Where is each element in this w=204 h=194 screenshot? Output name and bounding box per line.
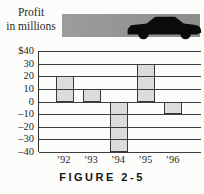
x-tick-label: ’96 (159, 154, 186, 165)
bar-93 (83, 89, 101, 102)
gridline (39, 114, 201, 115)
x-tick-label: ’92 (50, 154, 77, 165)
x-tick-label: ’93 (77, 154, 104, 165)
y-tick-label: –40 (18, 147, 34, 157)
y-tick-label: 0 (29, 97, 34, 107)
y-axis-labels: $403020100–10–20–30–40 (0, 51, 34, 152)
x-tick-label: ’94 (104, 154, 131, 165)
y-tick-label: –30 (18, 134, 34, 144)
gridline (39, 139, 201, 140)
y-tick-label: 20 (24, 71, 35, 81)
gridline (39, 76, 201, 77)
y-tick-label: $40 (18, 46, 34, 56)
x-tick-label: ’95 (132, 154, 159, 165)
figure-profit-chart: Profit in millions $403020100–10–20–30–4… (0, 0, 204, 194)
gridline (39, 102, 201, 103)
gridline (39, 64, 201, 65)
gridline (39, 89, 201, 90)
chart-title: Profit in millions (1, 6, 61, 33)
chart-title-line1: Profit (1, 6, 61, 20)
gridline (39, 152, 201, 153)
y-tick-label: 10 (24, 84, 35, 94)
plot-area (38, 51, 201, 152)
x-axis-labels: ’92’93’94’95’96 (38, 154, 200, 165)
car-icon (125, 14, 204, 42)
gridline (39, 127, 201, 128)
figure-caption: FIGURE 2-5 (0, 171, 204, 183)
bar-96 (164, 102, 182, 115)
y-tick-label: –20 (18, 122, 34, 132)
chart-title-line2: in millions (1, 20, 61, 34)
bar-95 (137, 64, 155, 102)
y-tick-label: 30 (24, 59, 35, 69)
y-tick-label: –10 (18, 109, 34, 119)
gridline (39, 51, 201, 52)
